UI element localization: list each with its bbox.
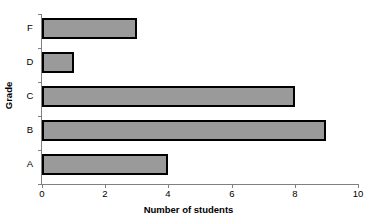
y-axis-tick <box>38 116 42 117</box>
category-label-c: C <box>22 90 38 101</box>
x-tick-label-2: 2 <box>93 188 117 199</box>
category-label-a: A <box>22 158 38 169</box>
y-axis-tick <box>38 150 42 151</box>
bar-f <box>42 18 137 39</box>
category-label-f: F <box>22 22 38 33</box>
x-axis-line <box>41 184 358 185</box>
x-tick-label-10: 10 <box>346 188 370 199</box>
bar-a <box>42 154 168 175</box>
x-tick-label-0: 0 <box>30 188 54 199</box>
bar-c <box>42 86 295 107</box>
x-axis-title: Number of students <box>0 204 377 215</box>
plot-area <box>42 14 358 184</box>
x-tick-label-8: 8 <box>283 188 307 199</box>
bar-b <box>42 120 326 141</box>
category-label-b: B <box>22 124 38 135</box>
y-axis-title: Grade <box>0 0 18 190</box>
y-axis-tick <box>38 48 42 49</box>
y-axis-title-text: Grade <box>4 81 15 108</box>
x-tick-label-4: 4 <box>156 188 180 199</box>
bar-d <box>42 52 74 73</box>
x-tick-label-6: 6 <box>220 188 244 199</box>
category-label-d: D <box>22 56 38 67</box>
bar-chart: Grade F D C B A 0 2 4 6 8 10 Number <box>0 0 377 224</box>
y-axis-tick <box>38 14 42 15</box>
y-axis-tick <box>38 82 42 83</box>
